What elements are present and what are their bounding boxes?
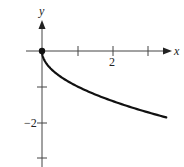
chart: x y 2 −2	[0, 0, 184, 167]
y-axis-label: y	[38, 4, 45, 18]
y-tick-label-neg2: −2	[24, 116, 37, 130]
y-axis-arrow-icon	[39, 20, 46, 29]
x-axis-label: x	[173, 44, 180, 58]
curve-neg-sqrt	[42, 51, 166, 117]
x-tick-label-2: 2	[109, 55, 115, 69]
origin-point	[39, 48, 45, 54]
x-axis-arrow-icon	[163, 48, 172, 55]
